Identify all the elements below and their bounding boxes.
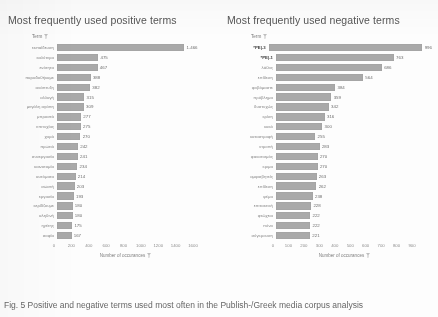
bar-row: δυστυχώς342 [223,102,432,111]
bar-row: κρίση316 [223,112,432,121]
bar[interactable] [57,133,80,140]
bar-row: ενότητα467 [4,63,213,72]
bar[interactable] [276,153,318,160]
x-axis-tick: 200 [68,243,75,248]
bar-row-label: φανατισμός [223,152,276,161]
bar[interactable] [57,64,98,71]
bar[interactable] [276,64,382,71]
bar-row-label: ενότητα [4,63,57,72]
bar[interactable] [276,202,311,209]
bar-value-label: 193 [76,193,83,200]
bar-track: 359 [276,93,432,100]
bar-value-label: 359 [334,94,341,101]
bar[interactable] [57,163,77,170]
bar[interactable] [276,212,310,219]
bar-row: επιτυχίας275 [4,122,213,131]
column-header-label: Term [251,34,261,39]
bar-track: 175 [57,222,213,229]
bar[interactable] [276,222,310,229]
bar[interactable] [276,54,394,61]
bar-rows-negative: *ΡΕ|-3996*ΡΕ|-1763λάθος686επίθεση564φοβό… [223,43,432,240]
bar[interactable] [57,84,90,91]
bar-value-label: 382 [92,84,99,91]
bar-row-label: παραδοθήκαμε [4,73,57,82]
bar-row-label: σύγκρουση [223,231,276,240]
bar[interactable] [57,44,184,51]
bar-track: 180 [57,212,213,219]
positive-terms-panel: Most frequently used positive terms Term… [0,0,219,295]
bar-track: 241 [57,153,213,160]
bar[interactable] [57,143,78,150]
bar-value-label: 275 [83,123,90,130]
bar[interactable] [276,173,317,180]
filter-icon[interactable] [366,253,370,258]
bar-value-label: 238 [315,193,322,200]
bar[interactable] [276,133,315,140]
x-axis-tick: 700 [378,243,385,248]
bar[interactable] [57,113,81,120]
figure-container: Most frequently used positive terms Term… [0,0,438,317]
bar[interactable] [57,103,84,110]
bar-row: αμφισβητείς263 [223,172,432,181]
bar[interactable] [276,182,316,189]
bar-track: 214 [57,173,213,180]
bar-row-label: ψέμα [223,192,276,201]
bar[interactable] [276,123,322,130]
bar-row: ανάπτυξη382 [4,83,213,92]
bar[interactable] [57,222,72,229]
bar[interactable] [276,232,310,239]
bar-row: καταστροφή255 [223,132,432,141]
x-axis-label-negative: Number of occurances [273,253,432,258]
bar-track: 203 [57,182,213,189]
bar[interactable] [276,74,363,81]
bar[interactable] [57,212,73,219]
bar-track: 270 [57,133,213,140]
x-axis-tick: 100 [285,243,292,248]
bar-row-label: *ΡΕ|-3 [223,43,269,52]
bar-row-label: καινοτομία [4,162,57,171]
bar[interactable] [269,44,423,51]
bar-row-label: επίθεση [223,73,276,82]
charts-row: Most frequently used positive terms Term… [0,0,438,295]
bar[interactable] [276,84,335,91]
bar-row: ψέμα238 [223,191,432,200]
bar-row: συνεργασία241 [4,152,213,161]
bar-track: 763 [276,54,432,61]
bar-row-label: εργασία [4,192,57,201]
bar[interactable] [57,182,75,189]
bar[interactable] [57,173,76,180]
bar-value-label: 763 [396,54,403,61]
bar[interactable] [276,192,313,199]
bar[interactable] [276,143,320,150]
bar-track: 238 [276,192,432,199]
filter-icon[interactable] [147,253,151,258]
bar[interactable] [57,192,74,199]
bar[interactable] [276,93,331,100]
bar-track: 388 [57,74,213,81]
bar[interactable] [57,74,91,81]
bar[interactable] [276,163,318,170]
bar[interactable] [57,153,78,160]
bar-track: 263 [276,173,432,180]
x-axis-tick: 1600 [188,243,198,248]
filter-icon[interactable] [263,34,267,39]
bar-value-label: 262 [319,183,326,190]
bar-track: 1.466 [57,44,213,51]
bar-row: επίθεση564 [223,73,432,82]
bar-row-label: εκπαίδευση [4,43,57,52]
filter-icon[interactable] [44,34,48,39]
bar[interactable] [276,103,329,110]
bar-value-label: 255 [318,133,325,140]
bar[interactable] [57,123,81,130]
bar-row-label: καταστροφή [223,132,276,141]
bar-row: πρωτιά242 [4,142,213,151]
x-axis-tick: 400 [85,243,92,248]
bar-track: 467 [57,64,213,71]
bar-row: πόνο222 [223,221,432,230]
bar[interactable] [276,113,325,120]
bar[interactable] [57,232,72,239]
bar-track: 275 [57,123,213,130]
bar[interactable] [57,93,84,100]
bar[interactable] [57,202,73,209]
bar[interactable] [57,54,98,61]
